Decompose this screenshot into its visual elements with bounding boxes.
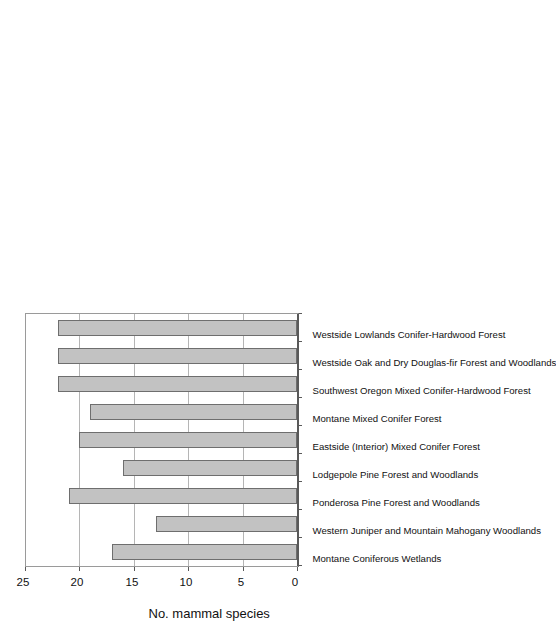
- bar: [69, 488, 297, 505]
- bar: [58, 320, 297, 337]
- category-axis-label: Westside Oak and Dry Douglas-fir Forest …: [313, 357, 556, 368]
- value-axis-tick: [134, 566, 135, 571]
- value-axis-tick: [243, 566, 244, 571]
- category-axis-tick: [297, 425, 302, 426]
- value-axis-tick-label: 15: [121, 576, 143, 588]
- bar: [90, 404, 297, 421]
- bar: [58, 348, 297, 365]
- category-axis-tick: [297, 397, 302, 398]
- value-axis-tick: [297, 566, 298, 571]
- category-axis-label: Montane Mixed Conifer Forest: [313, 413, 442, 424]
- value-axis-tick-label: 5: [230, 576, 252, 588]
- value-axis-tick-label: 25: [12, 576, 34, 588]
- bar: [112, 544, 297, 561]
- value-axis-tick: [188, 566, 189, 571]
- value-axis-tick-label: 20: [66, 576, 88, 588]
- plot-area: [25, 314, 298, 567]
- bar: [156, 516, 297, 533]
- value-axis-tick-label: 0: [284, 576, 306, 588]
- category-axis-tick: [297, 565, 302, 566]
- bar: [58, 376, 297, 393]
- bar: [79, 432, 297, 449]
- category-axis-tick: [297, 341, 302, 342]
- category-axis-label: Western Juniper and Mountain Mahogany Wo…: [313, 525, 541, 536]
- category-axis-tick: [297, 537, 302, 538]
- category-axis-label: Montane Coniferous Wetlands: [313, 553, 442, 564]
- category-axis-tick: [297, 369, 302, 370]
- value-axis-tick: [25, 566, 26, 571]
- category-axis-tick: [297, 481, 302, 482]
- category-axis-tick: [297, 313, 302, 314]
- category-axis-label: Westside Lowlands Conifer-Hardwood Fores…: [313, 329, 506, 340]
- category-axis-tick: [297, 509, 302, 510]
- category-axis-label: Eastside (Interior) Mixed Conifer Forest: [313, 441, 480, 452]
- value-axis-title: No. mammal species: [149, 606, 169, 621]
- category-axis-label: Ponderosa Pine Forest and Woodlands: [313, 497, 480, 508]
- category-axis-tick: [297, 453, 302, 454]
- category-axis-label: Lodgepole Pine Forest and Woodlands: [313, 469, 479, 480]
- value-axis-tick-label: 10: [175, 576, 197, 588]
- category-axis-label: Southwest Oregon Mixed Conifer-Hardwood …: [313, 385, 531, 396]
- value-axis-tick: [79, 566, 80, 571]
- bar: [123, 460, 297, 477]
